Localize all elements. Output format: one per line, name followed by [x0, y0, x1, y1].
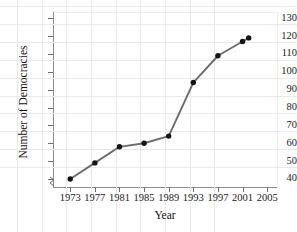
- tick-y: [48, 54, 53, 55]
- tick-y: [48, 161, 53, 162]
- y-axis-title: Number of Democracies: [17, 17, 29, 187]
- y-tick-label: 110: [253, 48, 297, 58]
- tick-y: [48, 108, 53, 109]
- y-tick-label: 40: [253, 173, 297, 183]
- line-chart: 130120110100908070605040 197319771981198…: [0, 0, 297, 232]
- gridline-y: [0, 60, 297, 61]
- tick-y: [48, 143, 53, 144]
- y-tick-label: 130: [253, 13, 297, 23]
- gridline-y: [0, 131, 297, 132]
- y-axis-line: [53, 12, 54, 187]
- y-tick-label: 50: [253, 156, 297, 166]
- tick-y: [48, 36, 53, 37]
- tick-y: [48, 90, 53, 91]
- y-tick-label: 120: [253, 31, 297, 41]
- gridline-y: [0, 78, 297, 79]
- gridline-y: [0, 113, 297, 114]
- tick-y: [48, 179, 53, 180]
- x-tick-label: 2005: [247, 192, 287, 203]
- x-axis-title: Year: [53, 209, 277, 221]
- y-tick-label: 90: [253, 84, 297, 94]
- tick-y: [48, 18, 53, 19]
- gridline-y: [0, 96, 297, 97]
- y-tick-label: 80: [253, 102, 297, 112]
- tick-y: [48, 125, 53, 126]
- y-tick-label: 100: [253, 66, 297, 76]
- gridline-y: [0, 149, 297, 150]
- tick-y: [48, 72, 53, 73]
- axis-break-icon: [49, 176, 58, 188]
- gridline-y: [0, 167, 297, 168]
- y-tick-label: 60: [253, 138, 297, 148]
- gridline-y: [0, 6, 297, 7]
- y-tick-label: 70: [253, 120, 297, 130]
- gridline-y: [0, 42, 297, 43]
- gridline-y: [0, 24, 297, 25]
- gridline-x: [42, 0, 43, 232]
